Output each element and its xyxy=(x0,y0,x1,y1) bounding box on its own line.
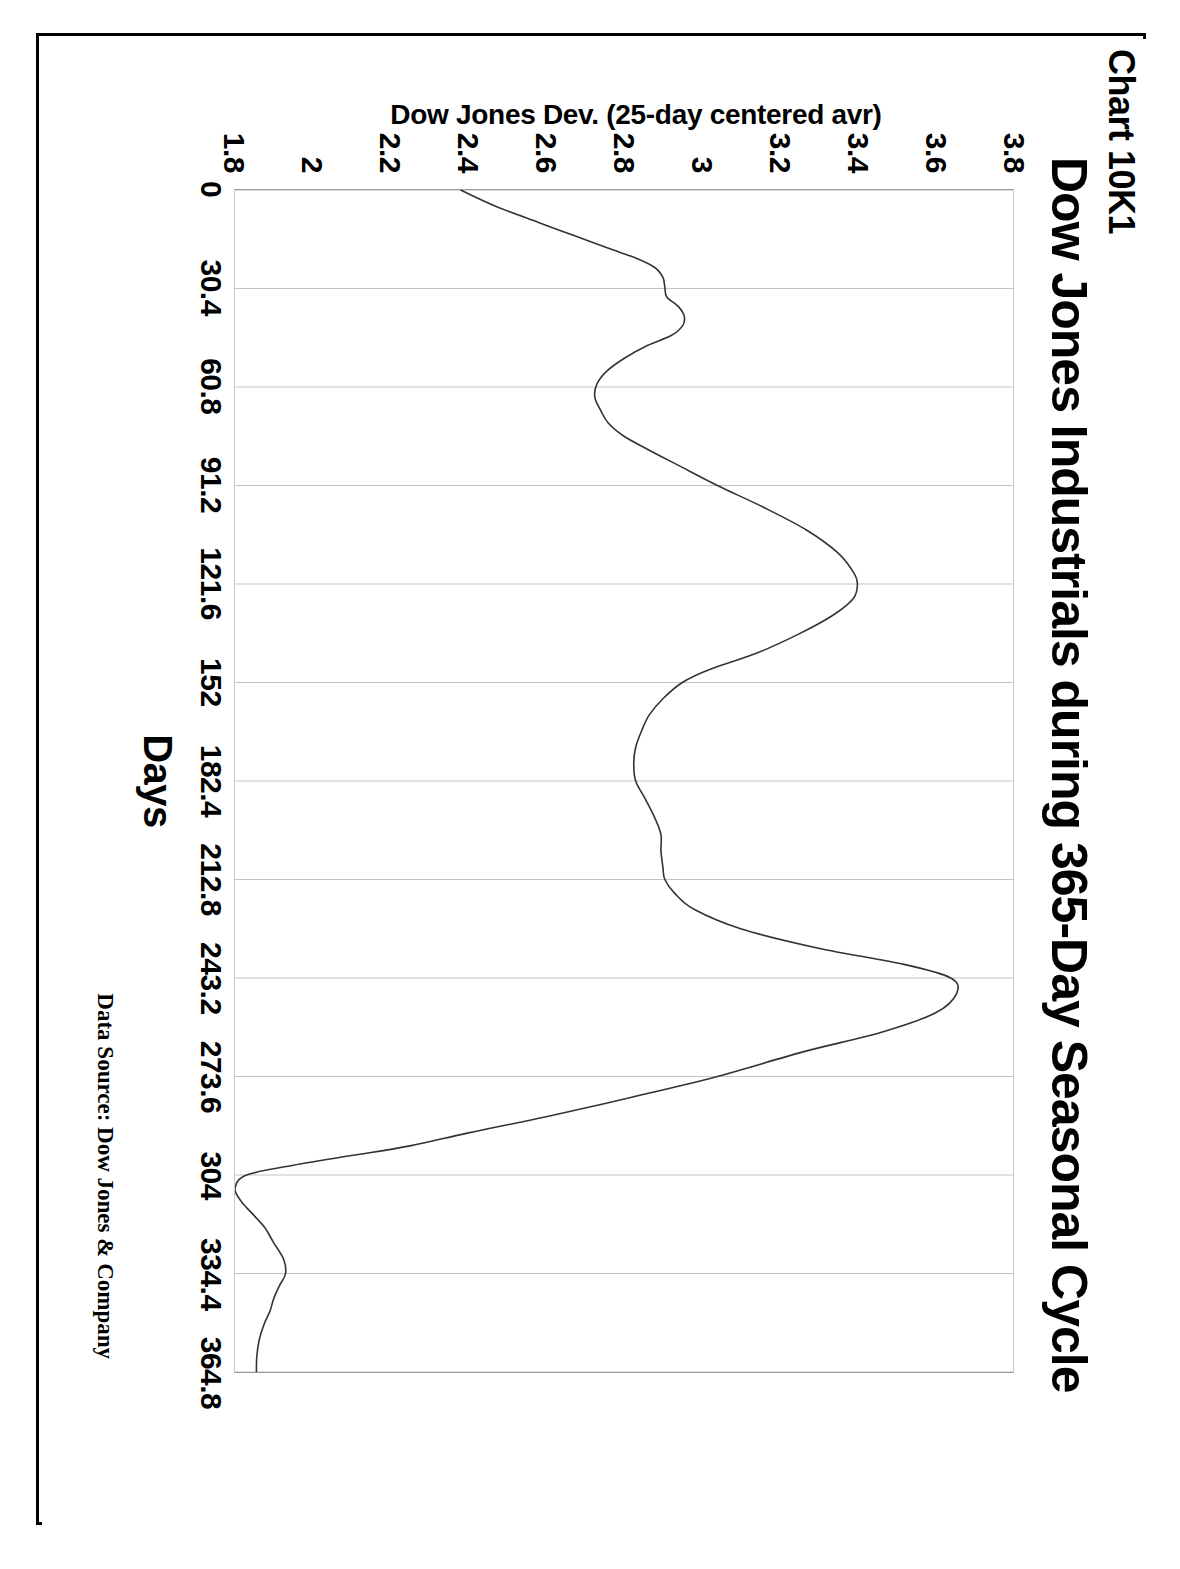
y-tick-label: 3.6 xyxy=(919,133,953,173)
grid-lines xyxy=(235,190,1013,1372)
x-tick-label: 243.2 xyxy=(194,942,228,1015)
x-tick-label: 91.2 xyxy=(194,457,228,513)
x-tick-label: 334.4 xyxy=(194,1238,228,1311)
x-axis-title: Days xyxy=(135,189,180,1373)
plot-area xyxy=(234,189,1014,1373)
chart-id-label: Chart 10K1 xyxy=(1100,49,1142,234)
y-tick-label: 2 xyxy=(295,157,329,173)
x-tick-label: 182.4 xyxy=(194,745,228,818)
x-tick-label: 152 xyxy=(194,658,228,707)
x-tick-label: 121.6 xyxy=(194,547,228,620)
x-axis-tick-labels: 030.460.891.2121.6152182.4212.8243.2273.… xyxy=(184,189,228,1373)
data-source-note: Data Source: Dow Jones & Company xyxy=(92,189,118,1373)
y-tick-label: 1.8 xyxy=(217,133,251,173)
x-tick-label: 304 xyxy=(194,1151,228,1200)
y-tick-label: 2.2 xyxy=(373,133,407,173)
x-tick-label: 60.8 xyxy=(194,358,228,414)
y-tick-label: 2.8 xyxy=(607,133,641,173)
y-tick-label: 3.4 xyxy=(841,133,875,173)
y-tick-label: 3 xyxy=(685,157,719,173)
x-tick-label: 212.8 xyxy=(194,843,228,916)
y-tick-label: 3.8 xyxy=(997,133,1031,173)
x-tick-label: 0 xyxy=(194,181,228,197)
y-axis-title: Dow Jones Dev. (25-day centered avr) xyxy=(246,99,1026,131)
rotated-chart-wrapper: Chart 10K1 Dow Jones Industrials during … xyxy=(39,36,1149,1528)
page-border-frame: Chart 10K1 Dow Jones Industrials during … xyxy=(36,33,1146,1525)
chart-title: Dow Jones Industrials during 365-Day Sea… xyxy=(1040,157,1098,1393)
y-tick-label: 3.2 xyxy=(763,133,797,173)
y-tick-label: 2.6 xyxy=(529,133,563,173)
x-tick-label: 273.6 xyxy=(194,1041,228,1114)
chart-canvas: Chart 10K1 Dow Jones Industrials during … xyxy=(42,39,1146,1525)
x-tick-label: 364.8 xyxy=(194,1337,228,1410)
plot-svg xyxy=(235,190,1013,1372)
x-tick-label: 30.4 xyxy=(194,259,228,315)
y-tick-label: 2.4 xyxy=(451,133,485,173)
